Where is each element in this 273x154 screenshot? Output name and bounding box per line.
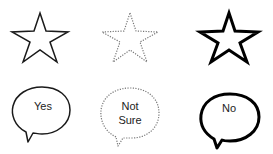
speech-bubble-no: No: [201, 94, 259, 148]
star-solid-icon: [12, 13, 68, 62]
speech-bubble-not-sure: Not Sure: [101, 88, 159, 146]
shapes-canvas: Yes Not Sure No: [0, 0, 273, 154]
bubble-not-sure-line2: Sure: [118, 114, 141, 126]
star-dotted-icon: [102, 13, 158, 62]
bubble-no-label: No: [222, 102, 236, 114]
bubble-not-sure-line1: Not: [121, 100, 138, 112]
bubble-yes-label: Yes: [34, 100, 52, 112]
speech-bubble-yes: Yes: [12, 87, 70, 142]
star-bold-icon: [200, 13, 258, 62]
